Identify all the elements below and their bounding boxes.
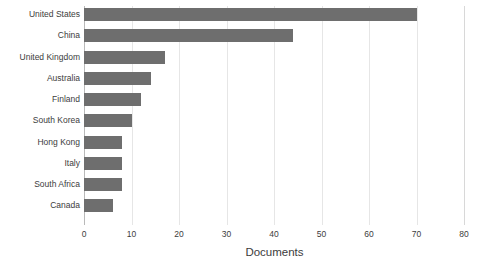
bar-row (84, 51, 165, 64)
category-axis-labels: United StatesChinaUnited KingdomAustrali… (0, 6, 80, 225)
tick-label: 20 (174, 227, 183, 241)
tick-label: 40 (269, 227, 278, 241)
category-label: Finland (2, 93, 80, 106)
bar (84, 93, 141, 106)
plot-area (84, 6, 464, 225)
bar (84, 29, 293, 42)
category-label: Australia (2, 72, 80, 85)
tick-label: 0 (82, 227, 87, 241)
bar (84, 72, 151, 85)
bar-row (84, 114, 132, 127)
x-axis-title: Documents (0, 246, 477, 258)
bar-chart: United StatesChinaUnited KingdomAustrali… (0, 0, 477, 269)
category-label: Canada (2, 199, 80, 212)
bar (84, 114, 132, 127)
gridline-80 (464, 6, 465, 225)
bar (84, 199, 113, 212)
tick-label: 60 (364, 227, 373, 241)
bar (84, 157, 122, 170)
bar-row (84, 8, 417, 21)
category-label: United Kingdom (2, 51, 80, 64)
bar-row (84, 72, 151, 85)
tick-label: 10 (127, 227, 136, 241)
category-label: South Korea (2, 114, 80, 127)
tick-label: 70 (412, 227, 421, 241)
value-axis-tick-labels: 01020304050607080 (0, 227, 477, 243)
tick-label: 30 (222, 227, 231, 241)
x-axis-title-text: Documents (245, 246, 303, 258)
category-label: United States (2, 8, 80, 21)
category-label: China (2, 29, 80, 42)
bar-row (84, 199, 113, 212)
tick-label: 80 (459, 227, 468, 241)
bar-row (84, 178, 122, 191)
tick-label: 50 (317, 227, 326, 241)
bar (84, 178, 122, 191)
bar (84, 136, 122, 149)
category-label: Hong Kong (2, 136, 80, 149)
bar (84, 8, 417, 21)
bar-row (84, 136, 122, 149)
category-label: South Africa (2, 178, 80, 191)
bars-layer (84, 6, 464, 225)
bar-row (84, 29, 293, 42)
bar (84, 51, 165, 64)
bar-row (84, 93, 141, 106)
bar-row (84, 157, 122, 170)
category-label: Italy (2, 157, 80, 170)
